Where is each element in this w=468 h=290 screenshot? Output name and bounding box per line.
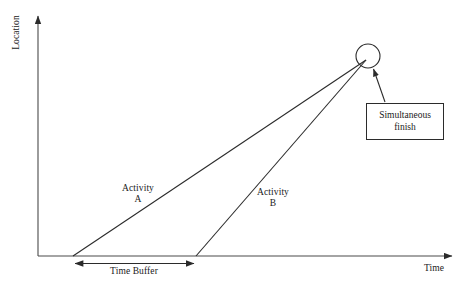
x-axis-label: Time bbox=[424, 263, 444, 274]
activity-a-label-line1: Activity bbox=[108, 183, 168, 194]
simultaneous-finish-circle bbox=[356, 44, 380, 68]
activity-a-label: Activity A bbox=[108, 183, 168, 205]
y-axis-label: Location bbox=[11, 3, 22, 63]
time-location-diagram: Location Time Activity A Activity B Time… bbox=[0, 0, 468, 290]
activity-a-label-line2: A bbox=[108, 194, 168, 205]
activity-b-label-line1: Activity bbox=[243, 187, 303, 198]
callout-leader-line bbox=[374, 69, 386, 102]
callout-line1: Simultaneous bbox=[379, 110, 431, 122]
callout-line2: finish bbox=[394, 122, 416, 134]
diagram-canvas bbox=[0, 0, 468, 290]
activity-b-label: Activity B bbox=[243, 187, 303, 209]
activity-b-line bbox=[196, 60, 366, 256]
time-buffer-label: Time Buffer bbox=[94, 266, 174, 277]
simultaneous-finish-callout: Simultaneous finish bbox=[366, 103, 444, 140]
activity-b-label-line2: B bbox=[243, 198, 303, 209]
activity-a-line bbox=[73, 60, 366, 256]
